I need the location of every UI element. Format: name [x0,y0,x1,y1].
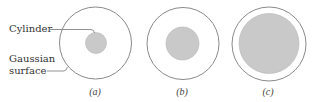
caption-a: (a) [89,86,101,97]
gaussian-surface-leader-line [47,67,68,71]
cylinder-a [86,33,107,54]
caption-c: (c) [262,86,273,97]
cylinder-c [239,14,299,74]
cylinder-b [166,27,199,60]
gaussian-surface-figure: Cylinder Gaussian surface (a) (b) (c) [0,0,313,102]
gaussian-label-line1: Gaussian [9,53,55,64]
caption-b: (b) [176,86,188,97]
cylinder-label: Cylinder [9,23,52,34]
gaussian-label-line2: surface [9,65,47,76]
cylinder-leader-line [50,30,95,34]
